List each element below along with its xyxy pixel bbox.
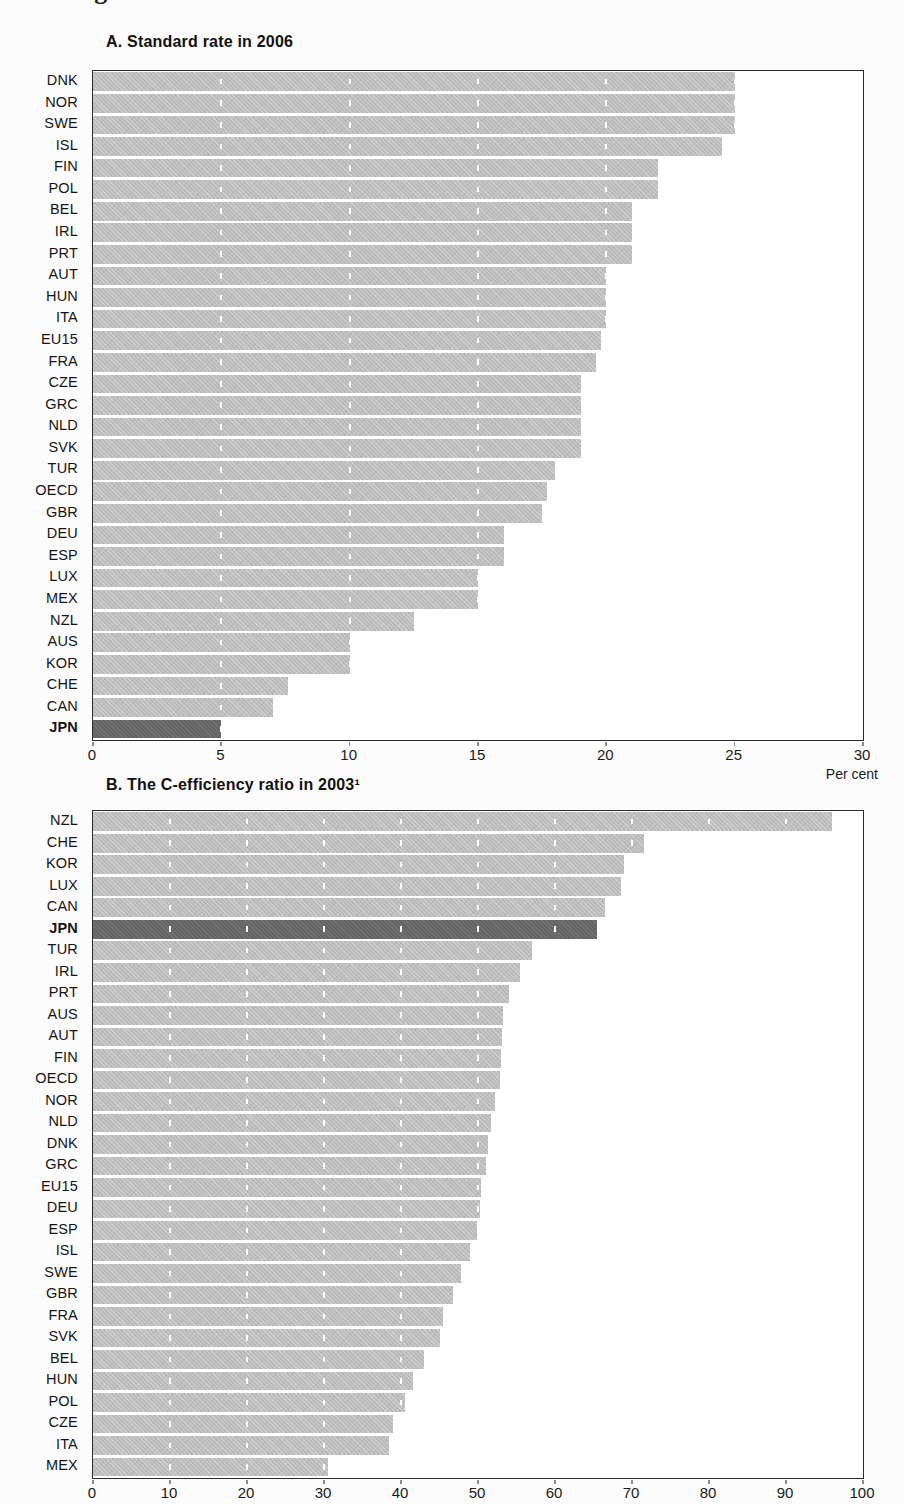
- category-label-ita: ITA: [0, 307, 78, 329]
- category-label-grc: GRC: [0, 1154, 78, 1176]
- category-label-jpn: JPN: [0, 918, 78, 940]
- panel-b-title: B. The C-efficiency ratio in 2003¹: [106, 776, 360, 794]
- x-axis-tick-label-10: 10: [139, 1484, 199, 1501]
- bar-nld: [93, 1114, 491, 1133]
- x-axis-tick-label-15: 15: [447, 746, 507, 763]
- category-label-jpn: JPN: [0, 717, 78, 739]
- bar-swe: [93, 1264, 461, 1283]
- category-label-can: CAN: [0, 896, 78, 918]
- category-label-fra: FRA: [0, 1305, 78, 1327]
- gridline-40: [400, 811, 402, 1478]
- category-label-esp: ESP: [0, 545, 78, 567]
- bar-irl: [93, 963, 520, 982]
- bar-fra: [93, 1307, 443, 1326]
- bar-ita: [93, 1436, 389, 1455]
- category-label-irl: IRL: [0, 961, 78, 983]
- gridline-50: [477, 811, 479, 1478]
- panel-a-category-labels: DNKNORSWEISLFINPOLBELIRLPRTAUTHUNITAEU15…: [0, 70, 78, 739]
- bar-tur: [93, 461, 555, 480]
- x-axis-tick-label-0: 0: [62, 1484, 122, 1501]
- category-label-eu15: EU15: [0, 1176, 78, 1198]
- bar-che: [93, 677, 288, 696]
- cropped-figure-title-text: Figure 3.9. Value-added taxes in OECD co…: [70, 0, 644, 6]
- x-axis-tick-label-60: 60: [524, 1484, 584, 1501]
- category-label-swe: SWE: [0, 1262, 78, 1284]
- bar-jpn: [93, 720, 221, 739]
- bar-aus: [93, 1006, 503, 1025]
- category-label-grc: GRC: [0, 394, 78, 416]
- bar-esp: [93, 547, 504, 566]
- gridline-15: [477, 71, 479, 740]
- category-label-che: CHE: [0, 674, 78, 696]
- x-axis-tick-label-50: 50: [447, 1484, 507, 1501]
- category-label-svk: SVK: [0, 437, 78, 459]
- bar-bel: [93, 202, 632, 221]
- gridline-80: [708, 811, 710, 1478]
- category-label-pol: POL: [0, 1391, 78, 1413]
- bar-lux: [93, 877, 621, 896]
- bar-nzl: [93, 612, 414, 631]
- x-axis-tick-label-100: 100: [832, 1484, 892, 1501]
- category-label-nld: NLD: [0, 415, 78, 437]
- gridline-20: [605, 71, 607, 740]
- bar-fin: [93, 159, 658, 178]
- bar-fin: [93, 1049, 501, 1068]
- category-label-aut: AUT: [0, 264, 78, 286]
- category-label-aus: AUS: [0, 1004, 78, 1026]
- bar-dnk: [93, 1135, 488, 1154]
- category-label-cze: CZE: [0, 372, 78, 394]
- bar-pol: [93, 1393, 405, 1412]
- category-label-pol: POL: [0, 178, 78, 200]
- category-label-oecd: OECD: [0, 480, 78, 502]
- bar-irl: [93, 223, 632, 242]
- x-axis-tick-label-80: 80: [678, 1484, 738, 1501]
- gridline-5: [220, 71, 222, 740]
- bar-dnk: [93, 72, 735, 91]
- category-label-nzl: NZL: [0, 610, 78, 632]
- category-label-tur: TUR: [0, 458, 78, 480]
- gridline-60: [554, 811, 556, 1478]
- panel-b-plot-area: [92, 810, 864, 1479]
- category-label-deu: DEU: [0, 1197, 78, 1219]
- x-axis-tick-label-0: 0: [62, 746, 122, 763]
- bar-mex: [93, 1458, 328, 1477]
- x-axis-tick-label-10: 10: [319, 746, 379, 763]
- category-label-nzl: NZL: [0, 810, 78, 832]
- bar-hun: [93, 1372, 413, 1391]
- bar-pol: [93, 180, 658, 199]
- category-label-nld: NLD: [0, 1111, 78, 1133]
- category-label-fin: FIN: [0, 1047, 78, 1069]
- category-label-swe: SWE: [0, 113, 78, 135]
- x-axis-tick-label-25: 25: [704, 746, 764, 763]
- category-label-gbr: GBR: [0, 502, 78, 524]
- category-label-bel: BEL: [0, 1348, 78, 1370]
- category-label-bel: BEL: [0, 199, 78, 221]
- panel-b-x-axis: 0102030405060708090100: [92, 1480, 862, 1504]
- category-label-isl: ISL: [0, 135, 78, 157]
- bar-kor: [93, 855, 624, 874]
- x-axis-tick-label-30: 30: [832, 746, 892, 763]
- category-label-gbr: GBR: [0, 1283, 78, 1305]
- bar-che: [93, 834, 644, 853]
- panel-b-category-labels: NZLCHEKORLUXCANJPNTURIRLPRTAUSAUTFINOECD…: [0, 810, 78, 1477]
- category-label-mex: MEX: [0, 1455, 78, 1477]
- bar-grc: [93, 396, 581, 415]
- bar-isl: [93, 1243, 470, 1262]
- bar-svk: [93, 439, 581, 458]
- category-label-hun: HUN: [0, 1369, 78, 1391]
- category-label-fin: FIN: [0, 156, 78, 178]
- category-label-kor: KOR: [0, 653, 78, 675]
- category-label-cze: CZE: [0, 1412, 78, 1434]
- category-label-nor: NOR: [0, 92, 78, 114]
- category-label-eu15: EU15: [0, 329, 78, 351]
- bar-prt: [93, 985, 509, 1004]
- gridline-10: [349, 71, 351, 740]
- panel-a-plot-area: [92, 70, 864, 741]
- category-label-fra: FRA: [0, 351, 78, 373]
- gridline-90: [785, 811, 787, 1478]
- category-label-lux: LUX: [0, 875, 78, 897]
- category-label-che: CHE: [0, 832, 78, 854]
- bar-nzl: [93, 812, 832, 831]
- category-label-dnk: DNK: [0, 70, 78, 92]
- category-label-oecd: OECD: [0, 1068, 78, 1090]
